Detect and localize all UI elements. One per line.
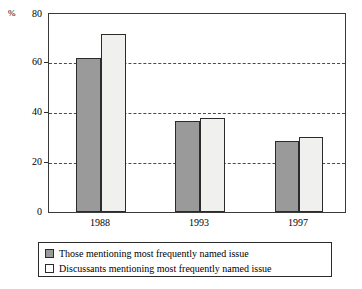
plot-area [48, 13, 346, 213]
legend-swatch-white-icon [45, 264, 54, 273]
y-tick-label-60: 60 [16, 57, 42, 67]
legend-item-series1: Those mentioning most frequently named i… [45, 246, 331, 260]
bar-chart: % 80 60 40 20 0 1988 1993 1997 Those men… [0, 0, 362, 289]
bar-1993-series2 [200, 118, 225, 212]
chart-legend: Those mentioning most frequently named i… [38, 242, 332, 277]
bar-1988-series1 [76, 58, 101, 212]
x-axis-label-1993: 1993 [169, 217, 229, 229]
y-tick-label-40: 40 [16, 107, 42, 117]
legend-item-series2: Discussants mentioning most frequently n… [45, 261, 331, 275]
y-tick-label-80: 80 [16, 9, 42, 19]
y-axis-unit-label: % [8, 8, 16, 18]
y-tick-label-20: 20 [16, 157, 42, 167]
bar-1988-series2 [101, 34, 126, 212]
bar-1997-series2 [299, 137, 323, 212]
bar-1997-series1 [275, 141, 299, 212]
legend-label-series1: Those mentioning most frequently named i… [59, 248, 249, 259]
y-tick-label-0: 0 [16, 207, 42, 217]
x-axis-label-1988: 1988 [70, 217, 130, 229]
x-axis-label-1997: 1997 [268, 217, 328, 229]
bar-1993-series1 [175, 121, 200, 212]
legend-swatch-gray-icon [45, 249, 54, 258]
legend-label-series2: Discussants mentioning most frequently n… [59, 263, 271, 274]
